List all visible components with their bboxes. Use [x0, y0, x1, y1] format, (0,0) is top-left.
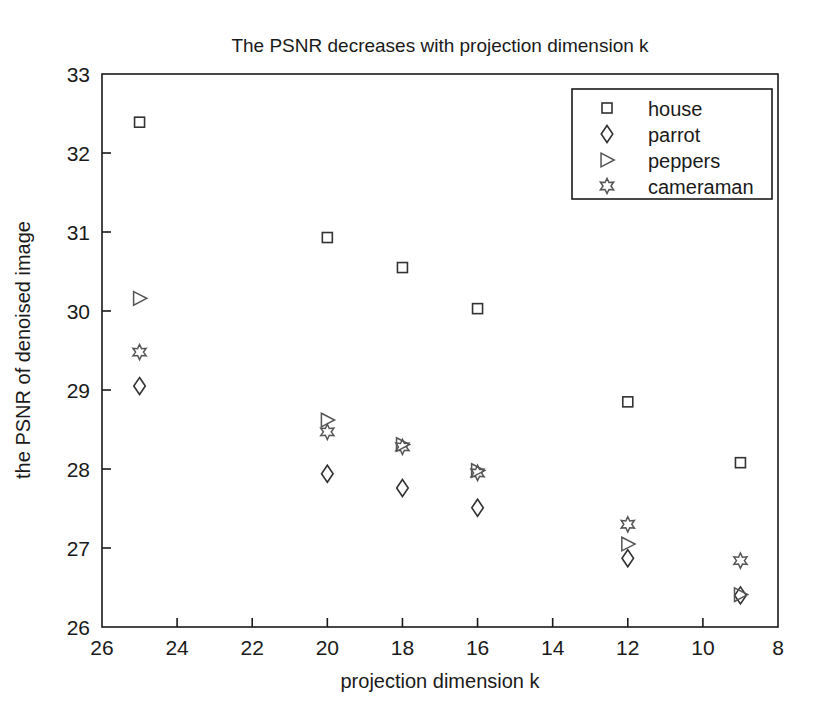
y-tick-label: 29 — [67, 379, 90, 402]
y-axis-ticks: 2627282930313233 — [67, 63, 111, 639]
square-marker-icon — [322, 233, 332, 243]
legend-label: parrot — [648, 124, 701, 146]
diamond-marker-icon — [134, 378, 146, 395]
series-parrot — [134, 378, 746, 604]
y-tick-label: 32 — [67, 142, 90, 165]
square-marker-icon — [473, 304, 483, 314]
x-axis-title: projection dimension k — [341, 670, 541, 692]
hexagram-marker-icon — [133, 344, 146, 359]
hexagram-marker-icon — [734, 553, 747, 568]
square-marker-icon — [397, 263, 407, 273]
x-tick-label: 8 — [772, 636, 784, 659]
hexagram-marker-icon — [621, 517, 634, 532]
chart-title: The PSNR decreases with projection dimen… — [231, 35, 649, 56]
x-tick-label: 10 — [691, 636, 714, 659]
x-tick-label: 18 — [391, 636, 414, 659]
legend: houseparrotpepperscameraman — [572, 89, 772, 199]
diamond-marker-icon — [322, 465, 334, 482]
legend-label: house — [648, 98, 703, 120]
x-tick-label: 14 — [541, 636, 565, 659]
y-tick-label: 30 — [67, 300, 90, 323]
y-tick-label: 26 — [67, 616, 90, 639]
x-axis-ticks: 2624222018161412108 — [90, 618, 784, 659]
series-cameraman — [133, 344, 747, 568]
legend-label: peppers — [648, 150, 720, 172]
y-tick-label: 28 — [67, 458, 90, 481]
y-tick-label: 27 — [67, 537, 90, 560]
series-peppers — [134, 292, 748, 602]
x-tick-label: 12 — [616, 636, 639, 659]
right-triangle-marker-icon — [134, 292, 147, 306]
figure-canvas: The PSNR decreases with projection dimen… — [0, 0, 829, 722]
square-marker-icon — [623, 397, 633, 407]
y-axis-title: the PSNR of denoised image — [12, 221, 34, 479]
scatter-plot: The PSNR decreases with projection dimen… — [0, 0, 829, 722]
diamond-marker-icon — [622, 550, 634, 567]
square-marker-icon — [735, 458, 745, 468]
x-tick-label: 22 — [241, 636, 264, 659]
x-tick-label: 16 — [466, 636, 489, 659]
y-tick-label: 33 — [67, 63, 90, 86]
diamond-marker-icon — [397, 479, 409, 496]
square-marker-icon — [135, 117, 145, 127]
right-triangle-marker-icon — [622, 537, 635, 551]
legend-label: cameraman — [648, 176, 754, 198]
diamond-marker-icon — [472, 499, 484, 516]
y-tick-label: 31 — [67, 221, 90, 244]
x-tick-label: 24 — [165, 636, 189, 659]
x-tick-label: 20 — [316, 636, 339, 659]
x-tick-label: 26 — [90, 636, 113, 659]
